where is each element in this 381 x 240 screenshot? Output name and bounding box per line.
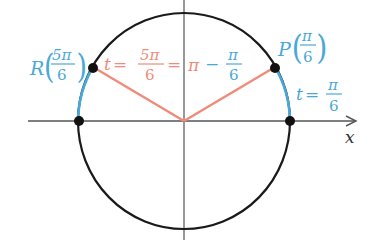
point-negative-x bbox=[74, 116, 84, 126]
point-p bbox=[270, 63, 280, 73]
svg-text:): ) bbox=[77, 47, 88, 85]
svg-text:5π: 5π bbox=[52, 46, 73, 64]
svg-text:P: P bbox=[277, 38, 292, 60]
label-t-left: t = 5π 6 = π − π 6 bbox=[104, 46, 242, 84]
svg-text:6: 6 bbox=[229, 66, 239, 84]
unit-circle-diagram: x R ( 5π 6 ) t = 5π 6 = π − π 6 P ( π 6 … bbox=[0, 0, 381, 240]
svg-text:=: = bbox=[305, 84, 319, 104]
svg-text:t: t bbox=[104, 54, 111, 74]
label-r-point: R ( 5π 6 ) bbox=[29, 46, 87, 86]
svg-text:): ) bbox=[316, 28, 327, 67]
svg-text:R: R bbox=[29, 57, 44, 79]
x-axis-label: x bbox=[345, 127, 355, 147]
svg-text:6: 6 bbox=[57, 66, 67, 84]
point-positive-x bbox=[285, 116, 295, 126]
svg-text:6: 6 bbox=[329, 97, 339, 115]
label-t-right: t = π 6 bbox=[296, 76, 342, 115]
svg-text:π: π bbox=[227, 46, 239, 64]
svg-text:π: π bbox=[187, 55, 200, 75]
point-r bbox=[88, 63, 98, 73]
svg-text:6: 6 bbox=[145, 66, 155, 84]
radius-to-r bbox=[93, 67, 184, 121]
svg-text:6: 6 bbox=[303, 48, 313, 66]
svg-text:t: t bbox=[296, 84, 303, 104]
label-p-point: P ( π 6 ) bbox=[277, 27, 327, 67]
svg-text:π: π bbox=[301, 27, 313, 45]
svg-text:=: = bbox=[113, 54, 127, 74]
svg-text:π: π bbox=[327, 76, 339, 94]
svg-text:5π: 5π bbox=[140, 46, 161, 64]
svg-text:=: = bbox=[167, 54, 181, 74]
svg-text:−: − bbox=[205, 54, 219, 74]
